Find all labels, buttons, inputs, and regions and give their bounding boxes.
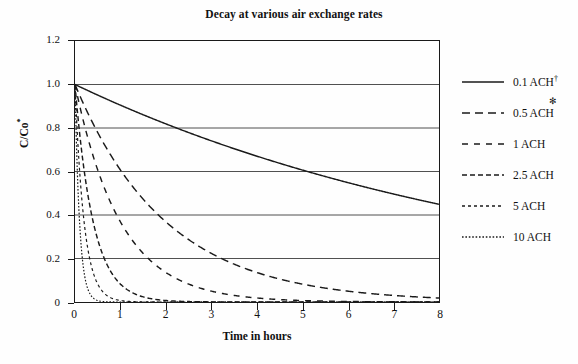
- legend-label: 1 ACH: [513, 138, 545, 150]
- y-tick-label: 1.2: [22, 34, 60, 45]
- x-tick-label: 0: [59, 308, 89, 320]
- decay-curve: [75, 84, 439, 302]
- legend-label-text: 10 ACH: [513, 231, 551, 243]
- x-tick-mark: [166, 303, 167, 310]
- decay-curve: [75, 84, 439, 302]
- legend-item[interactable]: 2.5 ACH: [462, 159, 574, 190]
- legend-label: 10 ACH: [513, 231, 551, 243]
- y-tick-label: 1.0: [22, 78, 60, 89]
- x-tick-label: 8: [425, 308, 455, 320]
- x-tick-mark: [394, 303, 395, 310]
- chart-root: Decay at various air exchange rates C/Co…: [0, 0, 578, 364]
- legend-label: 0.5 ACH✻: [513, 107, 554, 119]
- y-tick-label: 0: [22, 297, 60, 308]
- x-tick-mark: [257, 303, 258, 310]
- x-tick-mark: [211, 303, 212, 310]
- legend-label-footnote-mark: ✻: [549, 96, 557, 106]
- legend-item[interactable]: 10 ACH: [462, 221, 574, 252]
- decay-curves: [75, 41, 439, 302]
- x-tick-mark: [120, 303, 121, 310]
- x-axis-title: Time in hours: [74, 330, 440, 342]
- legend-line-icon: [462, 200, 504, 212]
- legend-label-text: 1 ACH: [513, 138, 545, 150]
- chart-title: Decay at various air exchange rates: [0, 8, 578, 20]
- legend-line-icon: [462, 76, 504, 88]
- legend-label: 2.5 ACH: [513, 169, 554, 181]
- legend-line-icon: [462, 169, 504, 181]
- x-tick-mark: [349, 303, 350, 310]
- decay-curve: [75, 84, 439, 301]
- y-tick-label: 0.2: [22, 253, 60, 264]
- plot-area: [74, 40, 440, 303]
- y-tick-label: 0.6: [22, 166, 60, 177]
- legend-item[interactable]: 5 ACH: [462, 190, 574, 221]
- legend-label-text: 0.1 ACH: [513, 76, 554, 88]
- legend-item[interactable]: 1 ACH: [462, 128, 574, 159]
- legend-item[interactable]: 0.5 ACH✻: [462, 97, 574, 128]
- decay-curve: [75, 84, 439, 204]
- y-tick-mark: [68, 303, 74, 304]
- legend-line-icon: [462, 107, 504, 119]
- legend-item[interactable]: 0.1 ACH†: [462, 66, 574, 97]
- legend-label-superscript: †: [554, 74, 558, 83]
- legend-line-icon: [462, 138, 504, 150]
- x-tick-mark: [303, 303, 304, 310]
- legend: 0.1 ACH†0.5 ACH✻1 ACH2.5 ACH5 ACH10 ACH: [462, 66, 574, 252]
- legend-label-text: 0.5 ACH: [513, 107, 554, 119]
- decay-curve: [75, 84, 439, 302]
- legend-label: 0.1 ACH†: [513, 76, 558, 88]
- legend-label-text: 2.5 ACH: [513, 169, 554, 181]
- legend-label-text: 5 ACH: [513, 200, 545, 212]
- y-tick-label: 0.8: [22, 122, 60, 133]
- y-tick-label: 0.4: [22, 209, 60, 220]
- chart-title-text: Decay at various air exchange rates: [195, 8, 382, 20]
- legend-line-icon: [462, 231, 504, 243]
- legend-label: 5 ACH: [513, 200, 545, 212]
